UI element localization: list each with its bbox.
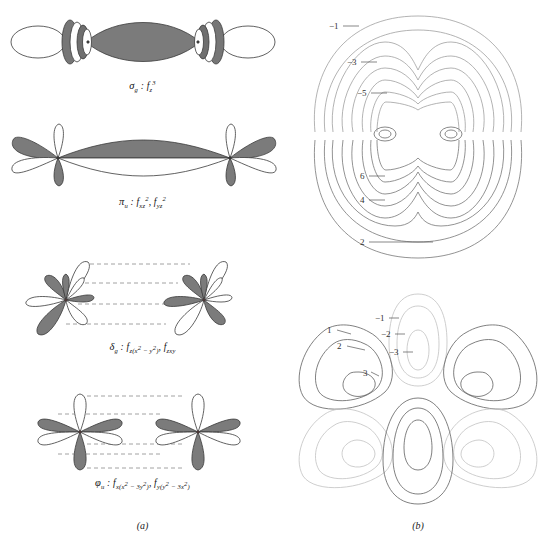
sigma-g-overlap-diagram — [8, 6, 278, 78]
panel-b-contour-maps: −1 −3 −5 6 4 2 — [285, 0, 551, 554]
sigma-left-nucleus-contour-outer — [374, 127, 396, 141]
sigma-contour-upper-3 — [332, 42, 504, 132]
phi-left-lobe-n-white — [73, 394, 85, 432]
phi-sub-mid-1: − 3y — [128, 483, 143, 490]
phi-leader-1 — [337, 330, 351, 334]
pi-central-lens — [58, 140, 230, 158]
phi-contour-label-3: 3 — [363, 368, 368, 378]
sigma-right-nucleus — [196, 41, 198, 43]
phi-left-lobe-s-gray — [73, 432, 85, 470]
phi-left-contours — [299, 325, 392, 409]
sigma-contour-lower-7 — [324, 140, 511, 242]
phi-contour-map-block: 1 2 3 −1 −2 −3 — [285, 286, 551, 514]
sigma-contour-label-neg3: −3 — [347, 57, 357, 67]
phi-sub-head-1: x(x — [116, 483, 125, 490]
pi-left-upper-outer-lobe — [12, 137, 58, 158]
phi-bottom-contour-3 — [404, 420, 432, 470]
delta-sub-head: z(x — [129, 347, 137, 354]
sigma-upper-contours — [314, 16, 521, 132]
phi-contour-label-neg1: −1 — [375, 313, 385, 323]
orbital-row-phi: φu : fx(x2 − 3y2), fy(y2 − 3x2) — [0, 388, 285, 490]
phi-symbol-sub: u — [101, 483, 105, 490]
delta-symbol-sub: g — [115, 347, 119, 354]
phi-lower-left-contours — [299, 409, 392, 488]
phi-right-contour-2 — [454, 340, 521, 401]
sigma-contour-map: −1 −3 −5 6 4 2 — [285, 4, 551, 272]
sigma-contour-upper-6 — [362, 80, 474, 132]
sigma-right-outer-lobe — [221, 26, 275, 58]
delta-g-overlap-diagram — [8, 252, 278, 340]
phi-center-contour-neg3 — [407, 330, 429, 370]
sigma-left-outer-lobe — [11, 26, 65, 58]
sigma-orbital-label: σg : fz3 — [0, 79, 285, 93]
delta-orbital-sub-2: zxy — [167, 347, 176, 354]
delta-right-nucleus — [202, 299, 204, 301]
sigma-contour-upper-5 — [352, 68, 484, 132]
panel-a-caption: (a) — [0, 520, 285, 531]
sigma-orbital-sup: 3 — [152, 79, 156, 86]
phi-right-lobe-nw-gray — [155, 419, 197, 432]
phi-lower-left-contour-2 — [315, 422, 382, 479]
pi-left-upper-inner-lobe — [54, 124, 63, 158]
pi-right-upper-inner-lobe — [226, 124, 235, 158]
phi-lower-left-contour-3 — [342, 440, 375, 467]
orbital-row-delta: δg : fz(x2 − y2), fzxy — [0, 252, 285, 354]
sigma-orbital-sub: z — [149, 86, 152, 93]
sigma-central-lens — [86, 23, 200, 62]
phi-contour-label-1: 1 — [327, 325, 332, 335]
phi-orbital-label: φu : fx(x2 − 3y2), fy(y2 − 3x2) — [0, 477, 285, 490]
phi-sub-tail-2: ) — [188, 483, 190, 490]
sigma-contour-lower-3 — [362, 140, 474, 194]
phi-lower-right-contour-1 — [444, 409, 537, 488]
panel-b-caption: (b) — [285, 520, 551, 531]
sigma-contour-label-6: 6 — [360, 171, 365, 181]
phi-left-contour-3 — [343, 372, 375, 396]
sigma-contour-label-2: 2 — [360, 237, 365, 247]
pi-left-nucleus — [56, 157, 58, 159]
phi-left-nucleus — [78, 431, 80, 433]
orbital-overlap-figure: σg : fz3 — [0, 0, 551, 554]
phi-right-contour-3 — [461, 372, 493, 396]
pi-orbital-sub-2: yz — [157, 202, 163, 209]
delta-right-lobe-s-gray — [204, 300, 225, 325]
phi-orbital-sub-1: x(x2 − 3y2) — [116, 483, 149, 490]
sigma-contour-label-neg5: −5 — [357, 88, 367, 98]
delta-left-nucleus — [64, 299, 66, 301]
phi-right-lobe-n-white — [191, 394, 203, 432]
pi-right-lower-inner-lobe — [226, 158, 235, 186]
phi-lower-right-contours — [444, 409, 537, 488]
phi-right-contours — [444, 325, 537, 409]
sigma-right-nucleus-contour-inner — [445, 130, 457, 138]
phi-left-lobe-nw-gray — [37, 419, 79, 432]
phi-contour-label-neg3: −3 — [389, 347, 399, 357]
phi-center-upper-contours — [389, 294, 447, 386]
phi-left-contour-2 — [315, 340, 382, 401]
phi-right-lobe-ne-gray — [198, 419, 240, 432]
sigma-left-nucleus — [86, 41, 88, 43]
sigma-contour-upper-1 — [314, 16, 521, 132]
phi-left-lobe-se-white — [80, 432, 122, 445]
phi-sub-mid-2: − 3x — [169, 483, 184, 490]
phi-bottom-contour-2 — [393, 408, 443, 494]
sigma-right-nucleus-contour-outer — [440, 127, 462, 141]
sigma-contour-lower-6 — [332, 140, 503, 226]
delta-orbital-sub-1: z(x2 − y2) — [129, 347, 158, 354]
phi-center-contour-neg2 — [397, 306, 439, 378]
sigma-contour-lower-4 — [352, 140, 484, 206]
phi-u-overlap-diagram — [8, 388, 278, 476]
phi-contour-label-2: 2 — [337, 341, 342, 351]
phi-left-lobe-sw-white — [37, 432, 79, 445]
phi-contour-label-neg2: −2 — [381, 329, 391, 339]
pi-left-lower-inner-lobe — [54, 158, 63, 186]
phi-contour-map: 1 2 3 −1 −2 −3 — [285, 286, 551, 510]
sigma-nuclei-region — [374, 127, 462, 141]
delta-orbital-label: δg : fz(x2 − y2), fzxy — [0, 341, 285, 354]
phi-left-lobe-ne-gray — [80, 419, 122, 432]
sigma-contour-map-block: −1 −3 −5 6 4 2 — [285, 4, 551, 276]
phi-lower-right-contour-2 — [454, 422, 521, 479]
pi-symbol-sub: u — [124, 202, 128, 209]
phi-orbital-sub-2: y(y2 − 3x2) — [157, 483, 190, 490]
phi-right-lobe-se-white — [198, 432, 240, 445]
phi-leader-2 — [347, 346, 365, 350]
pi-right-nucleus — [228, 157, 230, 159]
